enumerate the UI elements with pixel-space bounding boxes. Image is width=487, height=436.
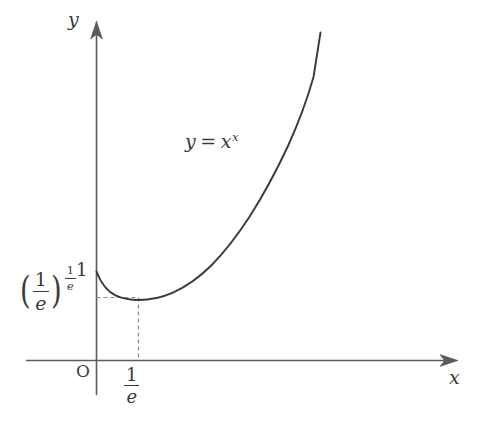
fraction-denominator: e [124,386,139,406]
base-fraction-one-over-e: 1 e [33,269,49,313]
exponent-denominator: e [65,279,76,292]
fraction-one-over-e: 1 e [124,365,139,407]
equation-lhs: y [185,130,196,152]
function-curve [97,33,321,301]
equation-base: x [221,130,232,152]
close-paren: ) [51,274,62,307]
plot-canvas [0,0,487,436]
x-axis [26,355,458,367]
y-axis [91,21,103,395]
equals-sign: = [200,130,216,152]
exponent-fraction-one-over-e: 1 e [65,264,76,292]
x-axis-tick-label-one-over-e: 1 e [124,365,139,407]
exponent-numerator: 1 [65,264,76,278]
y-axis-label: y [68,10,79,29]
base-numerator: 1 [33,269,49,292]
curve-equation-label: y=xx [185,132,239,151]
open-paren: ( [20,274,31,307]
math-figure: y x O 1 1 e ( 1 e ) 1 e y=xx [0,0,487,436]
exponent-group: 1 e [65,264,76,292]
base-denominator: e [33,292,49,314]
fraction-numerator: 1 [124,365,139,386]
origin-label: O [76,363,90,380]
x-axis-label: x [449,368,460,387]
y-axis-tick-label-one-over-e-power: ( 1 e ) 1 e [18,269,76,313]
equation-exponent: x [232,130,239,144]
y-axis-tick-label-one: 1 [76,261,87,279]
